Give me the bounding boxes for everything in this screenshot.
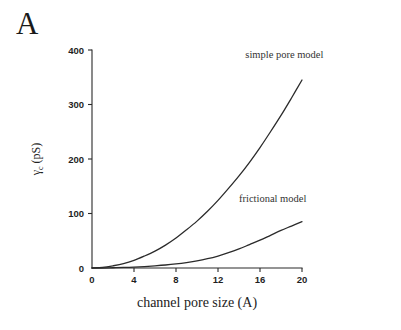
y-axis-title: γc (pS) bbox=[29, 143, 45, 177]
x-tick-label: 20 bbox=[297, 274, 308, 285]
y-tick-label: 100 bbox=[68, 208, 84, 219]
x-tick-label: 8 bbox=[173, 274, 178, 285]
figure-panel: A 0100200300400048121620channel pore siz… bbox=[0, 0, 401, 330]
series-curve bbox=[92, 222, 302, 268]
x-axis-title: channel pore size (A) bbox=[137, 295, 257, 311]
x-tick-label: 16 bbox=[255, 274, 266, 285]
series-curve bbox=[92, 80, 302, 268]
x-tick-label: 4 bbox=[131, 274, 137, 285]
y-tick-label: 300 bbox=[68, 99, 84, 110]
series-label: simple pore model bbox=[245, 49, 323, 60]
chart-canvas: 0100200300400048121620channel pore size … bbox=[0, 0, 401, 330]
series-label: frictional model bbox=[239, 193, 306, 204]
x-tick-label: 0 bbox=[89, 274, 94, 285]
y-tick-label: 400 bbox=[68, 45, 84, 56]
y-tick-label: 200 bbox=[68, 154, 84, 165]
y-tick-label: 0 bbox=[79, 263, 84, 274]
x-tick-label: 12 bbox=[213, 274, 224, 285]
